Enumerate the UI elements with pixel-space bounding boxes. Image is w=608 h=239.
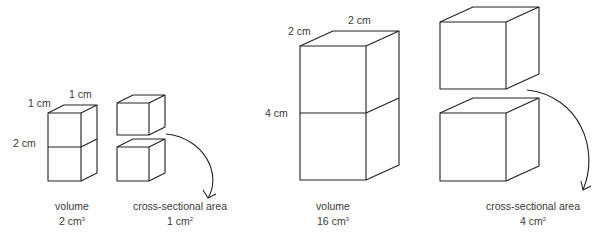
caption-title: cross-sectional area bbox=[478, 200, 588, 213]
large-split-cubes bbox=[440, 7, 539, 181]
small-depth-label: 1 cm bbox=[28, 97, 51, 109]
caption-value: 1 cm2 bbox=[125, 213, 235, 228]
caption-title: volume bbox=[44, 200, 100, 213]
caption-value: 2 cm3 bbox=[44, 213, 100, 228]
small-split-cubes bbox=[117, 95, 165, 181]
caption-title: volume bbox=[305, 200, 361, 213]
small-volume-caption: volume 2 cm3 bbox=[44, 200, 100, 228]
small-area-caption: cross-sectional area 1 cm2 bbox=[125, 200, 235, 228]
large-width-label: 2 cm bbox=[348, 14, 371, 26]
small-height-label: 2 cm bbox=[13, 137, 36, 149]
caption-value: 4 cm2 bbox=[478, 213, 588, 228]
large-height-label: 4 cm bbox=[265, 107, 288, 119]
large-depth-label: 2 cm bbox=[288, 25, 311, 37]
caption-value: 16 cm3 bbox=[305, 213, 361, 228]
large-stack-cubes bbox=[300, 31, 399, 180]
large-volume-caption: volume 16 cm3 bbox=[305, 200, 361, 228]
large-area-caption: cross-sectional area 4 cm2 bbox=[478, 200, 588, 228]
large-rotate-arrow bbox=[527, 90, 589, 190]
caption-title: cross-sectional area bbox=[125, 200, 235, 213]
small-rotate-arrow bbox=[166, 134, 213, 198]
small-width-label: 1 cm bbox=[69, 88, 92, 100]
small-stack-cubes bbox=[48, 105, 97, 181]
